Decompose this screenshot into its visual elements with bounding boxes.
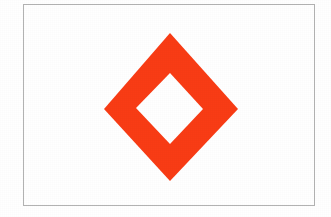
diamond-svg [0,0,331,217]
image-canvas [0,0,331,217]
diamond-artwork [0,0,331,217]
